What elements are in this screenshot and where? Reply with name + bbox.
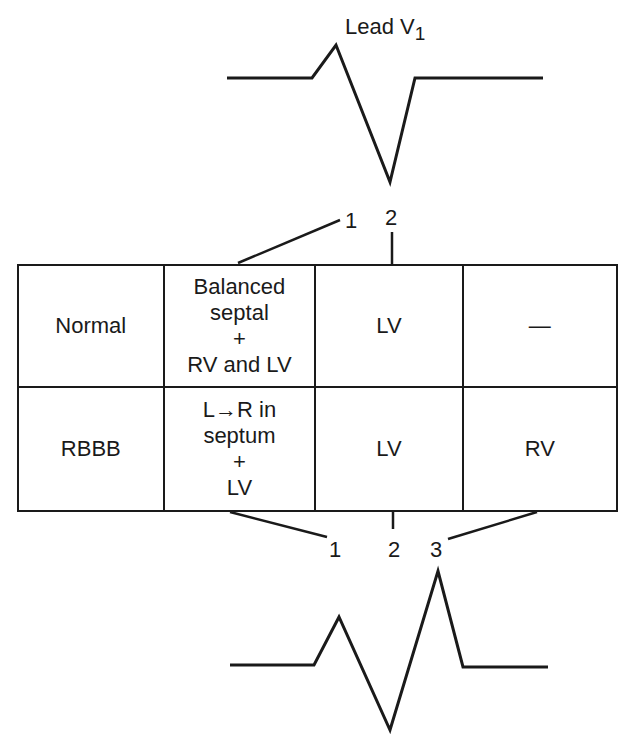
bottom-leader-3 <box>448 512 537 539</box>
bottom-marker-2: 2 <box>388 539 400 561</box>
phase1-cell: L→R in septum + LV <box>164 387 316 511</box>
cell-line: + <box>165 326 315 352</box>
cell-line: Balanced <box>165 274 315 300</box>
cell-line: RV and LV <box>165 352 315 378</box>
phase1-cell: Balanced septal + RV and LV <box>164 265 316 387</box>
lead-title-subscript: 1 <box>415 23 426 44</box>
lead-title: Lead V1 <box>345 14 425 45</box>
table-row-normal: Normal Balanced septal + RV and LV LV — <box>18 265 617 387</box>
cell-line: + <box>165 449 315 475</box>
normal-v1-waveform <box>227 45 543 182</box>
top-leader-1 <box>238 220 340 263</box>
phase2-cell: LV <box>315 387 462 511</box>
lead-title-text: Lead V <box>345 14 415 39</box>
top-marker-1: 1 <box>345 210 357 232</box>
phase3-cell: RV <box>463 387 617 511</box>
bottom-marker-3: 3 <box>430 539 442 561</box>
phase3-cell: — <box>463 265 617 387</box>
bottom-leader-1 <box>230 512 327 537</box>
table-row-rbbb: RBBB L→R in septum + LV LV RV <box>18 387 617 511</box>
cell-line: L→R in <box>165 397 315 423</box>
cell-line: septum <box>165 423 315 449</box>
conduction-table: Normal Balanced septal + RV and LV LV — … <box>17 264 618 512</box>
bottom-marker-1: 1 <box>329 539 341 561</box>
phase2-cell: LV <box>315 265 462 387</box>
cell-line: LV <box>165 475 315 501</box>
top-marker-2: 2 <box>385 207 397 229</box>
row-label: RBBB <box>18 387 164 511</box>
row-label: Normal <box>18 265 164 387</box>
cell-line: septal <box>165 300 315 326</box>
rbbb-v1-waveform <box>230 571 548 730</box>
